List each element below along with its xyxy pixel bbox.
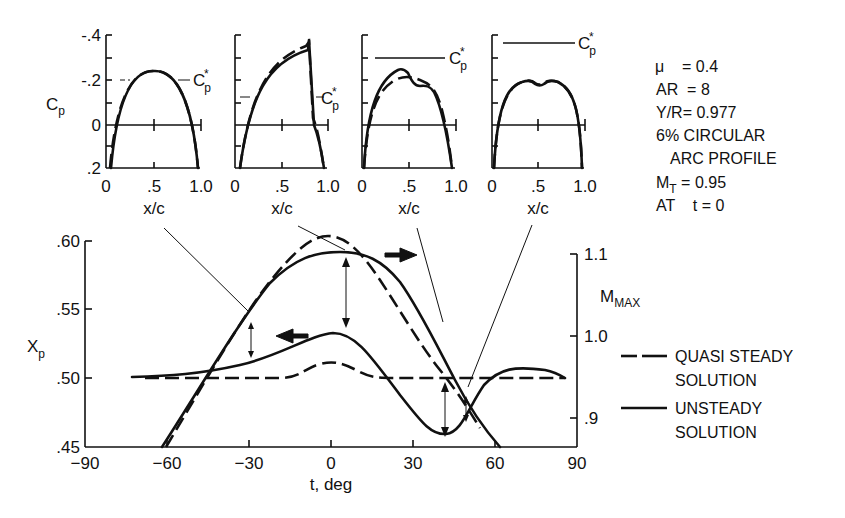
main-plot: .60 .55 .50 .45 1.1 1.0 .9 −90 −60 −30 0… bbox=[27, 232, 640, 494]
x-axis-label: x/c bbox=[527, 199, 549, 218]
legend-unsteady-line2: SOLUTION bbox=[675, 424, 757, 441]
cp-star-label: Cp* bbox=[578, 30, 596, 58]
x-axis-label: x/c bbox=[271, 199, 293, 218]
at-time-value: AT t = 0 bbox=[656, 197, 724, 214]
cp-plot-1: -.4 -.2 0 .2 Cp Cp* 0 .5 1.0 x/c bbox=[46, 26, 213, 218]
cp-star-label: Cp* bbox=[449, 45, 467, 73]
y-tick-0.55: .55 bbox=[56, 300, 80, 319]
x-tick-0: 0 bbox=[487, 177, 496, 196]
x-tick-1.0: 1.0 bbox=[444, 177, 468, 196]
x-tick-1.0: 1.0 bbox=[189, 177, 213, 196]
x-axis-label: x/c bbox=[398, 199, 420, 218]
y-tick-neg-0.2: -.2 bbox=[81, 71, 101, 90]
right-tick-0.9: .9 bbox=[584, 409, 598, 428]
mu-value: μ = 0.4 bbox=[655, 58, 718, 75]
y-tick-0.60: .60 bbox=[56, 232, 80, 251]
x-tick-neg90: −90 bbox=[71, 454, 100, 473]
mmax-axis-label: MMAX bbox=[600, 287, 640, 310]
cp-star-label: Cp* bbox=[193, 67, 211, 95]
tip-mach-value: MT = 0.95 bbox=[656, 174, 726, 196]
y-tick-0: 0 bbox=[92, 116, 101, 135]
profile-line-2: ARC PROFILE bbox=[670, 150, 777, 167]
cp-plot-2: Cp* 0 .5 1.0 x/c bbox=[230, 35, 340, 218]
x-tick-1.0: 1.0 bbox=[316, 177, 340, 196]
y-tick-neg-0.4: -.4 bbox=[81, 26, 101, 45]
conditions-block: μ = 0.4 AR = 8 Y/R= 0.977 6% CIRCULAR AR… bbox=[655, 58, 777, 214]
right-tick-1.0: 1.0 bbox=[584, 327, 608, 346]
aspect-ratio-value: AR = 8 bbox=[656, 81, 710, 98]
cp-plot-4: Cp* 0 .5 1.0 x/c bbox=[487, 30, 597, 218]
legend-quasi-steady-line1: QUASI STEADY bbox=[675, 348, 794, 365]
y-tick-0.2: .2 bbox=[87, 159, 101, 178]
x-tick-0: 0 bbox=[326, 454, 335, 473]
x-axis-label: t, deg bbox=[310, 475, 353, 494]
x-tick-1.0: 1.0 bbox=[573, 177, 597, 196]
cp-axis-label: Cp bbox=[46, 95, 65, 118]
x-tick-0: 0 bbox=[230, 177, 239, 196]
x-tick-0: 0 bbox=[101, 177, 110, 196]
cp-star-label: Cp* bbox=[321, 85, 339, 113]
mmax-quasi-steady-curve bbox=[166, 236, 480, 447]
x-tick-90: 90 bbox=[568, 454, 587, 473]
x-axis-label: x/c bbox=[143, 199, 165, 218]
right-axis-arrow-icon bbox=[385, 248, 417, 262]
x-tick-neg60: −60 bbox=[153, 454, 182, 473]
x-tick-0.5: .5 bbox=[402, 177, 416, 196]
x-tick-0.5: .5 bbox=[147, 177, 161, 196]
y-tick-0.50: .50 bbox=[56, 369, 80, 388]
mmax-unsteady-curve bbox=[162, 252, 500, 447]
legend-unsteady-line1: UNSTEADY bbox=[675, 400, 762, 417]
right-tick-1.1: 1.1 bbox=[584, 245, 608, 264]
cp-plot-3: Cp* 0 .5 1.0 x/c bbox=[357, 35, 468, 218]
y-over-r-value: Y/R= 0.977 bbox=[656, 104, 737, 121]
figure: -.4 -.2 0 .2 Cp Cp* 0 .5 1.0 x/c Cp* 0 .… bbox=[0, 0, 845, 518]
x-tick-neg30: −30 bbox=[235, 454, 264, 473]
x-tick-0.5: .5 bbox=[531, 177, 545, 196]
leader-lines bbox=[164, 225, 532, 387]
difference-arrows bbox=[248, 257, 469, 437]
x-tick-0.5: .5 bbox=[275, 177, 289, 196]
x-tick-30: 30 bbox=[404, 454, 423, 473]
x-tick-0: 0 bbox=[357, 177, 366, 196]
xp-unsteady-curve bbox=[132, 333, 565, 434]
xp-axis-label: Xp bbox=[27, 337, 45, 361]
legend: QUASI STEADY SOLUTION UNSTEADY SOLUTION bbox=[621, 348, 794, 441]
legend-quasi-steady-line2: SOLUTION bbox=[675, 372, 757, 389]
x-tick-60: 60 bbox=[486, 454, 505, 473]
profile-line-1: 6% CIRCULAR bbox=[656, 127, 765, 144]
